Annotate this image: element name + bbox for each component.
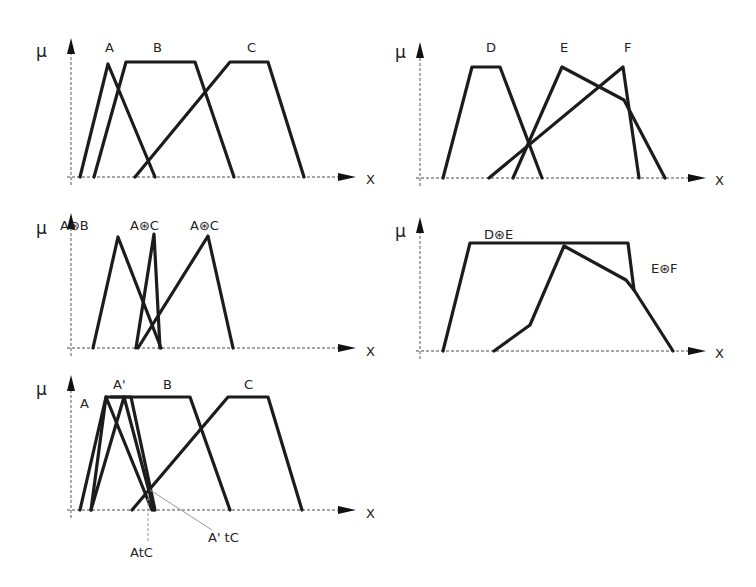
y-axis-arrow-icon [67, 375, 75, 391]
membership-curve-f [489, 67, 639, 178]
top-right-axes: μX [395, 42, 724, 188]
top-left-axes: μX [36, 38, 375, 187]
x-axis-arrow-icon [688, 174, 706, 182]
membership-curve-a [80, 64, 155, 177]
x-axis-arrow-icon [688, 347, 706, 355]
set-label: A [105, 40, 114, 55]
mu-axis-label: μ [36, 379, 47, 399]
x-axis-arrow-icon [338, 344, 356, 352]
x-axis-label: X [366, 506, 375, 521]
panel-top-right-labels: DEF [486, 40, 631, 55]
x-axis-arrow-icon [338, 173, 356, 181]
membership-curve-e-f [494, 246, 634, 351]
mu-axis-label: μ [395, 42, 406, 62]
curves-layer [80, 62, 673, 510]
y-axis-arrow-icon [67, 38, 75, 54]
x-axis-label: X [715, 173, 724, 188]
set-label: A [80, 396, 89, 411]
panel-mid-right-labels: D⊛EE⊛F [484, 227, 678, 276]
set-label: B [153, 40, 162, 55]
y-axis-arrow-icon [416, 42, 424, 58]
y-axis-arrow-icon [416, 217, 424, 233]
annotation-label: A' tC [208, 530, 239, 545]
membership-curve-d [443, 67, 542, 178]
set-label: A⊛C [190, 218, 219, 233]
membership-curve-a [80, 397, 152, 510]
set-label: E⊛F [651, 261, 678, 276]
set-label: A⊛C [130, 218, 159, 233]
set-label: D [486, 40, 496, 55]
panel-mid-left [93, 234, 233, 348]
set-label: C [247, 40, 256, 55]
fuzzy-diagram: μXμXμXμXμX ABCDEFA⊛BA⊛CA⊛CD⊛EE⊛FAA'BCAtC… [0, 0, 756, 587]
set-label: F [624, 40, 631, 55]
panel-mid-right [443, 243, 673, 351]
panel-mid-left-labels: A⊛BA⊛CA⊛C [60, 218, 219, 233]
mu-axis-label: μ [395, 221, 406, 241]
membership-curve-c [135, 62, 304, 177]
mid-left-axes: μX [36, 213, 375, 359]
x-axis-label: X [366, 172, 375, 187]
panel-top-right [443, 67, 665, 178]
annotation-label: AtC [130, 545, 153, 560]
labels-layer: ABCDEFA⊛BA⊛CA⊛CD⊛EE⊛FAA'BCAtCA' tC [60, 40, 678, 560]
x-axis-arrow-icon [338, 506, 356, 514]
x-axis-label: X [715, 346, 724, 361]
set-label: A' [113, 377, 125, 392]
set-label: A⊛B [60, 218, 89, 233]
mu-axis-label: μ [36, 218, 47, 238]
panel-top-left-labels: ABC [105, 40, 256, 55]
panel-top-left [80, 62, 304, 177]
set-label: E [560, 40, 568, 55]
set-label: B [163, 377, 172, 392]
mu-axis-label: μ [36, 41, 47, 61]
membership-curve-c [132, 397, 302, 510]
x-axis-label: X [366, 344, 375, 359]
set-label: D⊛E [484, 227, 513, 242]
panel-bottom-left [80, 397, 302, 510]
set-label: C [244, 377, 253, 392]
